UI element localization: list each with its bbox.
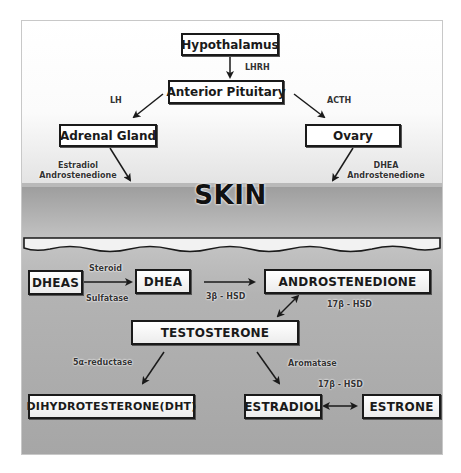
label-steroid: Steroid bbox=[89, 264, 122, 274]
label-lh: LH bbox=[110, 96, 122, 106]
node-anterior-pituitary: Anterior Pituitary bbox=[168, 80, 284, 104]
label-adrenal-output-1: Estradiol bbox=[38, 161, 118, 171]
node-androstenedione: ANDROSTENEDIONE bbox=[264, 269, 431, 294]
node-dht: DIHYDROTESTERONE(DHT) bbox=[28, 394, 195, 419]
label-3b-hsd: 3β - HSD bbox=[206, 292, 245, 302]
node-testosterone: TESTOSTERONE bbox=[131, 320, 299, 345]
label-ovary-output-1: DHEA bbox=[346, 161, 426, 171]
label-sulfatase: Sulfatase bbox=[86, 294, 129, 304]
label-17b-hsd-top: 17β - HSD bbox=[327, 300, 372, 310]
node-dheas: DHEAS bbox=[28, 270, 83, 295]
node-estradiol: ESTRADIOL bbox=[244, 394, 322, 419]
node-estrone: ESTRONE bbox=[362, 394, 441, 419]
node-adrenal-gland: Adrenal Gland bbox=[59, 124, 157, 147]
node-dhea: DHEA bbox=[135, 269, 191, 294]
node-hypothalamus: Hypothalamus bbox=[181, 33, 279, 56]
label-17b-hsd-bottom: 17β - HSD bbox=[318, 380, 363, 390]
node-ovary: Ovary bbox=[305, 124, 401, 147]
label-lhrh: LHRH bbox=[245, 63, 270, 73]
label-aromatase: Aromatase bbox=[288, 359, 337, 369]
label-5a-reductase: 5α-reductase bbox=[73, 358, 132, 368]
label-acth: ACTH bbox=[327, 96, 351, 106]
skin-title: SKIN bbox=[0, 180, 461, 210]
